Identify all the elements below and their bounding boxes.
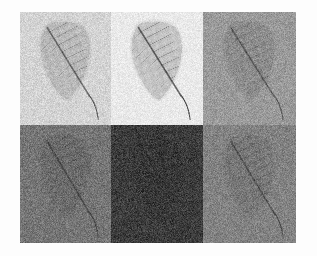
- leaf-image-grid: [0, 0, 317, 256]
- figure-container: [0, 0, 317, 256]
